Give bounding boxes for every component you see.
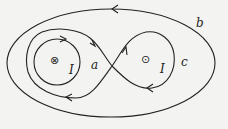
current-into-page-icon: ⊗ — [50, 54, 59, 67]
loop-figure-eight — [27, 29, 175, 101]
loop-label-a: a — [91, 58, 98, 72]
ampere-loop-diagram: ⊗ I a ⊙ I c b — [0, 0, 228, 129]
loop-label-c: c — [181, 55, 188, 69]
loop-label-b: b — [196, 16, 204, 30]
current-label-left: I — [68, 63, 74, 77]
current-out-of-page-icon: ⊙ — [141, 53, 150, 66]
arrow-down-right-icon — [90, 40, 95, 46]
current-label-right: I — [159, 62, 165, 76]
